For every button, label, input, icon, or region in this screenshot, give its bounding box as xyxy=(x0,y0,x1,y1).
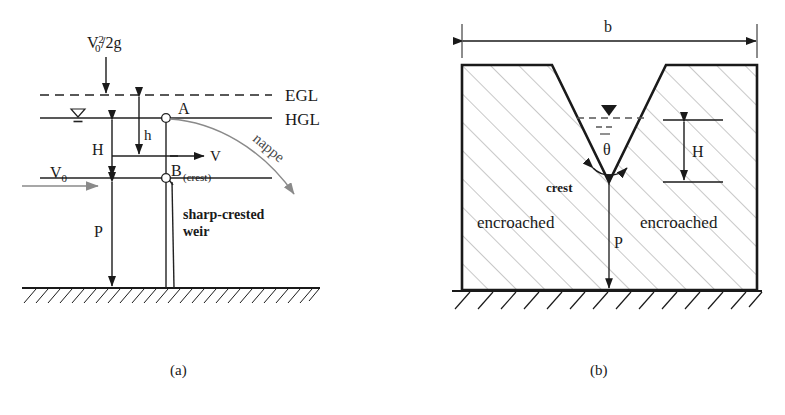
velocity-head-tail: /2g xyxy=(101,34,121,52)
panel-a: V2 0 /2g EGL HGL A B (crest) h H P V V0 … xyxy=(22,33,320,303)
ground-b xyxy=(452,291,762,309)
encroached-label-right: encroached xyxy=(640,213,718,232)
ground-a xyxy=(22,288,320,303)
velocity-v-label: V xyxy=(210,148,221,164)
nappe-label: nappe xyxy=(250,130,288,165)
figure-svg: V2 0 /2g EGL HGL A B (crest) h H P V V0 … xyxy=(0,0,785,415)
point-a-marker xyxy=(162,114,171,123)
caption-panel-a: (a) xyxy=(170,362,187,379)
P-label-a: P xyxy=(94,223,103,240)
point-b-label: B xyxy=(171,162,182,179)
point-b-sub-label: (crest) xyxy=(183,171,211,184)
H-label-b: H xyxy=(692,143,704,160)
point-b-marker xyxy=(162,174,171,183)
H-label-a: H xyxy=(92,141,104,158)
channel-width-label: b xyxy=(604,18,612,35)
weir-plate xyxy=(166,120,174,288)
approach-velocity-label: V0 xyxy=(50,164,68,184)
panel-b: b xyxy=(452,18,762,309)
angle-label: θ xyxy=(603,141,611,158)
figure-container: V2 0 /2g EGL HGL A B (crest) h H P V V0 … xyxy=(0,0,785,415)
weir-label-line1: sharp-crested xyxy=(183,207,265,222)
water-surface-symbol-a xyxy=(71,109,85,122)
crest-label: crest xyxy=(546,180,573,195)
encroached-label-left: encroached xyxy=(477,213,555,232)
weir-label-line2: weir xyxy=(183,224,209,239)
egl-label: EGL xyxy=(285,86,318,105)
hgl-label: HGL xyxy=(285,110,320,129)
caption-panel-b: (b) xyxy=(590,362,608,379)
h-label: h xyxy=(144,127,152,143)
point-a-label: A xyxy=(178,100,190,117)
P-label-b: P xyxy=(614,234,623,251)
